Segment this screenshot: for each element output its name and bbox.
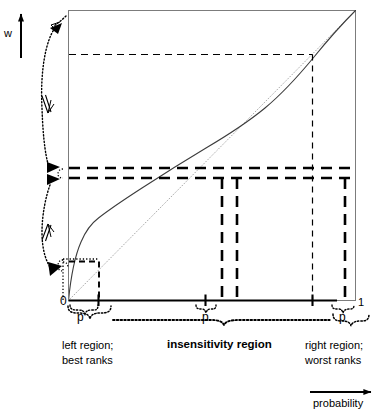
insensitivity-region-brace	[113, 320, 330, 325]
left-region-brace	[68, 306, 111, 319]
right-region-label-line2: worst ranks	[305, 355, 361, 366]
lower-bracket-arrowhead	[48, 262, 62, 276]
y-axis-label: w	[4, 28, 12, 39]
lower-bracket-annotation	[42, 185, 98, 300]
right-region-label-line1: right region;	[305, 340, 363, 351]
left-region-label-line1: left region;	[62, 340, 113, 351]
x-end-label: 1	[358, 297, 364, 308]
insensitivity-region-label: insensitivity region	[167, 339, 272, 351]
x-axis-label: probability	[313, 398, 363, 409]
x-origin-label: 0	[60, 295, 67, 307]
middle-bracket-annotation	[47, 162, 63, 185]
x-tick-label-middle-p: p	[202, 311, 209, 323]
figure-canvas: w 0 1 p p p left region; best ranks inse…	[0, 0, 381, 417]
upper-bracket-annotation	[42, 16, 66, 170]
middle-arrowhead-upper	[47, 162, 60, 173]
left-region-label-line2: best ranks	[62, 355, 113, 366]
x-tick-label-right-p: p	[339, 311, 346, 323]
x-tick-label-left-p: p	[77, 311, 84, 323]
